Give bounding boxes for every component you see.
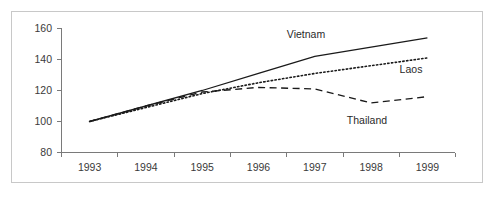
line-chart: 160 140 120 100 80 1993 1994 1995 1996 1…: [0, 0, 495, 204]
series-line-laos: [90, 58, 428, 122]
x-tick-label: 1993: [78, 161, 102, 173]
x-tick-label: 1997: [303, 161, 327, 173]
y-tick-label: 100: [34, 115, 52, 127]
series-line-vietnam: [90, 38, 428, 122]
y-tick-label: 120: [34, 84, 52, 96]
chart-screenshot: 160 140 120 100 80 1993 1994 1995 1996 1…: [0, 0, 495, 204]
x-tick-label: 1995: [191, 161, 215, 173]
x-tick-label: 1999: [416, 161, 440, 173]
x-axis-ticks: [62, 153, 456, 158]
y-tick-label: 160: [34, 22, 52, 34]
x-tick-label: 1998: [359, 161, 383, 173]
y-tick-label: 140: [34, 53, 52, 65]
y-axis-ticks: [57, 29, 62, 153]
x-tick-label: 1994: [134, 161, 158, 173]
y-axis-labels: 160 140 120 100 80: [34, 22, 52, 158]
series-label-thailand: Thailand: [347, 114, 387, 126]
x-axis-labels: 1993 1994 1995 1996 1997 1998 1999: [78, 161, 439, 173]
series-label-vietnam: Vietnam: [287, 28, 326, 40]
series-label-laos: Laos: [400, 63, 423, 75]
x-tick-label: 1996: [247, 161, 271, 173]
y-tick-label: 80: [40, 146, 52, 158]
